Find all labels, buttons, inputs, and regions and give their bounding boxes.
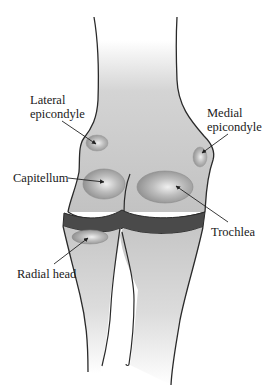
ulna (102, 227, 203, 385)
label-capitellum: Capitellum (13, 171, 69, 185)
label-medial-epicondyle: Medial epicondyle (207, 106, 262, 134)
medial-epicondyle-center (193, 147, 207, 167)
ulna-body (120, 227, 203, 385)
label-trochlea-text: Trochlea (211, 225, 255, 239)
trochlea-center (137, 171, 193, 203)
label-medial-epicondyle-line1: Medial (207, 106, 262, 120)
label-radial-head-text: Radial head (17, 267, 76, 281)
label-medial-epicondyle-line2: epicondyle (207, 120, 262, 134)
lateral-epicondyle-center (86, 135, 108, 151)
radius (63, 226, 121, 374)
label-lateral-epicondyle-line2: epicondyle (30, 107, 85, 121)
label-lateral-epicondyle: Lateral epicondyle (30, 93, 85, 121)
label-lateral-epicondyle-line1: Lateral (30, 93, 85, 107)
label-trochlea: Trochlea (211, 225, 255, 239)
radius-body (63, 226, 121, 374)
capitellum-center (83, 169, 125, 199)
radial-head-center (72, 230, 108, 244)
label-radial-head: Radial head (17, 267, 76, 281)
elbow-diagram (0, 0, 273, 389)
label-capitellum-text: Capitellum (13, 171, 69, 185)
